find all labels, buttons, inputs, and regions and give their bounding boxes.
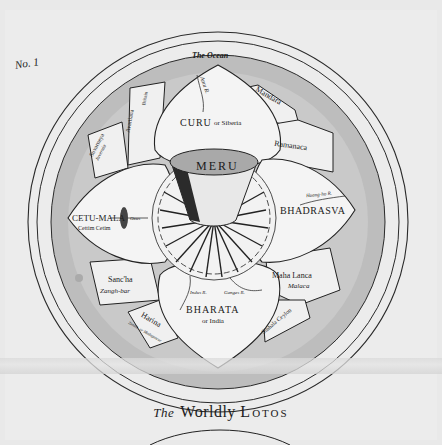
maha-lanca-alt: Malaca xyxy=(288,283,309,290)
sancha-alt: Zangh-bar xyxy=(100,288,130,295)
sancha-label: Sanc'ha xyxy=(108,276,133,284)
worldly-lotos-map xyxy=(0,0,442,445)
map-caption: TheWorldly Lotos xyxy=(0,404,442,420)
caption-prefix: The xyxy=(153,405,174,420)
next-plate-arc xyxy=(150,430,290,445)
blot xyxy=(75,274,83,282)
caption-word1: Worldly xyxy=(180,403,236,420)
meru-label: MERU xyxy=(196,160,239,172)
bharata-label: BHARATA xyxy=(186,305,239,315)
ocean-label: The Ocean xyxy=(192,52,228,60)
caption-word2: Lotos xyxy=(240,403,288,420)
oxus-river: Oxus xyxy=(130,216,140,221)
bhadrasva-label: BHADRASVA xyxy=(280,206,345,216)
curu-label: CURU xyxy=(180,118,212,128)
ganges-river: Ganges R. xyxy=(224,290,245,295)
maha-lanca-label: Maha Lanca xyxy=(272,272,312,280)
curu-alt: or Siberia xyxy=(214,120,241,127)
cetu-mala-label: CETU-MALA xyxy=(72,214,125,223)
indus-river: Indus R. xyxy=(190,290,207,295)
scan-fold-band xyxy=(0,358,442,374)
bharata-alt: or India xyxy=(202,318,224,325)
cetu-mala-alt: Cettim Cetim xyxy=(78,225,111,231)
